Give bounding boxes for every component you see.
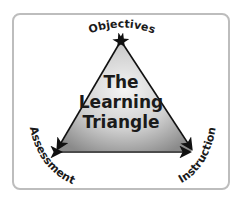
- center-title-line-3: Triangle: [71, 112, 171, 132]
- label-objectives: Objectives: [87, 17, 158, 36]
- center-title-line-1: The: [71, 72, 171, 92]
- center-title-line-2: Learning: [71, 92, 171, 112]
- center-title: The Learning Triangle: [71, 72, 171, 132]
